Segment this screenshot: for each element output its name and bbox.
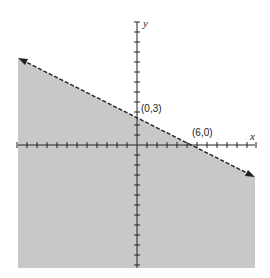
point-label-y-intercept: (0,3) — [141, 103, 162, 114]
arrowhead-right-icon — [245, 170, 255, 177]
inequality-graph: y x (0,3) (6,0) — [0, 0, 270, 278]
x-axis-label: x — [249, 130, 255, 142]
point-label-x-intercept: (6,0) — [192, 127, 213, 138]
y-axis-label: y — [142, 17, 148, 29]
